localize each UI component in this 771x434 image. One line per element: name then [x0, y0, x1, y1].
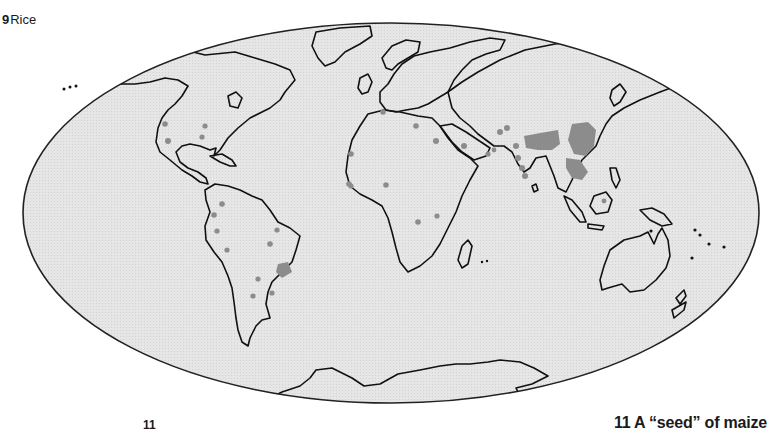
world-map — [0, 0, 771, 434]
next-figure-caption: 11 A “seed” of maize — [614, 414, 767, 432]
page-number: 11 — [143, 418, 156, 432]
